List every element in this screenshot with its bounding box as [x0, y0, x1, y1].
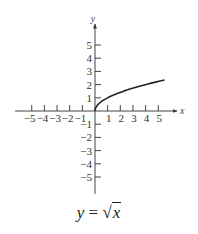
- y-tick-label: −4: [80, 158, 92, 170]
- y-tick-label: −5: [80, 171, 92, 183]
- y-tick-label: 3: [87, 65, 93, 77]
- y-tick-label: −2: [80, 131, 92, 143]
- x-axis-label: x: [179, 105, 185, 116]
- y-tick-label: 4: [87, 52, 93, 64]
- y-tick-label: 2: [87, 79, 93, 91]
- x-tick-label: 5: [157, 112, 163, 124]
- y-tick-label: −3: [80, 145, 92, 157]
- function-caption: y = √x: [0, 203, 198, 223]
- radical-icon: √: [102, 203, 111, 222]
- x-tick-label: −3: [49, 112, 61, 124]
- x-tick-label: −2: [62, 112, 74, 124]
- y-tick-label: 5: [87, 39, 93, 51]
- x-tick-label: 4: [144, 112, 150, 124]
- caption-lhs: y: [77, 203, 85, 222]
- x-tick-label: −4: [37, 112, 49, 124]
- x-tick-label: 1: [106, 112, 112, 124]
- y-tick-label: −1: [80, 118, 92, 130]
- x-tick-label: 2: [119, 112, 125, 124]
- y-tick-label: 1: [87, 92, 93, 104]
- x-tick-label: 3: [131, 112, 137, 124]
- x-tick-label: −5: [24, 112, 36, 124]
- caption-equals: =: [89, 203, 99, 222]
- y-axis-label: y: [90, 13, 96, 24]
- x-ticks: −5−4−3−2−112345: [24, 105, 163, 124]
- function-graph: x y −5−4−3−2−112345 −5−4−3−2−112345: [0, 0, 198, 234]
- caption-radicand: x: [112, 202, 122, 222]
- sqrt-curve: [95, 80, 165, 111]
